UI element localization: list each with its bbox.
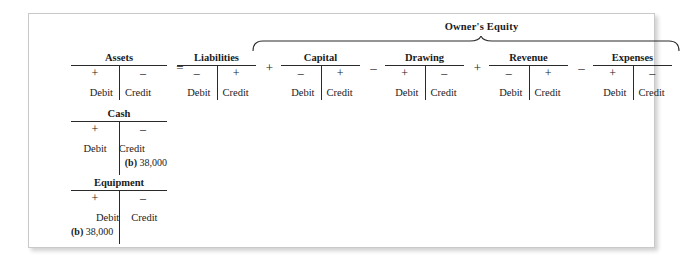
taccount-drawing: Drawing+–DebitCredit — [385, 51, 464, 100]
debit-entry: (b) 38,000 — [71, 225, 119, 238]
account-center-stem — [217, 66, 218, 100]
account-center-stem — [425, 66, 426, 100]
credit-label: Credit — [327, 86, 361, 100]
account-title: Assets — [71, 51, 167, 64]
debit-sign: + — [71, 191, 119, 206]
taccount-assets: Assets+–DebitCredit — [71, 51, 167, 100]
account-body: –+DebitCredit — [177, 66, 256, 100]
debit-label: Debit — [593, 86, 627, 100]
account-center-stem — [633, 66, 634, 100]
owners-equity-brace — [251, 36, 681, 52]
debit-sign: + — [593, 66, 633, 81]
account-center-stem — [321, 66, 322, 100]
credit-column: Credit — [125, 211, 167, 238]
account-body: –+DebitCredit — [489, 66, 568, 100]
account-title: Capital — [281, 51, 360, 64]
account-body: +–DebitCredit — [71, 66, 167, 100]
account-title: Drawing — [385, 51, 464, 64]
account-title: Revenue — [489, 51, 568, 64]
credit-label: Credit — [431, 86, 465, 100]
credit-label: Credit — [223, 86, 257, 100]
debit-sign: – — [489, 66, 529, 81]
credit-entry: (b) 38,000 — [119, 156, 167, 169]
credit-sign: – — [633, 66, 673, 81]
debit-label: Debit — [281, 86, 315, 100]
account-body: +–DebitCredit — [593, 66, 672, 100]
account-body: –+DebitCredit — [281, 66, 360, 100]
credit-label: Credit — [535, 86, 569, 100]
debit-column: Debit — [71, 86, 119, 100]
credit-sign: – — [119, 191, 167, 206]
account-title: Liabilities — [177, 51, 256, 64]
account-center-stem — [119, 191, 120, 244]
debit-label: Debit — [71, 86, 113, 100]
credit-column: Credit — [321, 86, 361, 100]
taccount-expenses: Expenses+–DebitCredit — [593, 51, 672, 100]
credit-sign: – — [119, 122, 167, 137]
debit-label: Debit — [385, 86, 419, 100]
debit-sign: – — [281, 66, 321, 81]
taccount-revenue: Revenue–+DebitCredit — [489, 51, 568, 100]
credit-sign: + — [529, 66, 569, 81]
account-body: +–DebitCredit(b) 38,000 — [71, 122, 167, 169]
debit-sign: + — [71, 122, 119, 137]
debit-sign: – — [177, 66, 217, 81]
debit-label: Debit — [71, 211, 119, 225]
account-center-stem — [119, 122, 120, 175]
credit-label: Credit — [131, 211, 167, 225]
taccount-capital: Capital–+DebitCredit — [281, 51, 360, 100]
credit-column: Credit — [217, 86, 257, 100]
operator-after-capital: – — [361, 61, 386, 74]
credit-column: Credit — [119, 86, 167, 100]
debit-column: Debit — [281, 86, 321, 100]
debit-label: Debit — [177, 86, 211, 100]
debit-sign: + — [71, 66, 119, 81]
debit-sign: + — [385, 66, 425, 81]
debit-column: Debit — [593, 86, 633, 100]
operator-after-revenue: – — [569, 61, 594, 74]
account-title: Expenses — [593, 51, 672, 64]
credit-sign: – — [425, 66, 465, 81]
account-body: +–Debit(b) 38,000Credit — [71, 191, 167, 238]
debit-label: Debit — [71, 142, 107, 156]
debit-column: Debit(b) 38,000 — [71, 211, 125, 238]
operator-after-drawing: + — [465, 61, 490, 74]
taccount-liabilities: Liabilities–+DebitCredit — [177, 51, 256, 100]
account-center-stem — [529, 66, 530, 100]
accounting-equation-figure: Owner's Equity Assets+–DebitCredit=Liabi… — [28, 13, 655, 248]
credit-sign: + — [321, 66, 361, 81]
account-title: Equipment — [71, 176, 167, 189]
debit-label: Debit — [489, 86, 523, 100]
taccount-equipment: Equipment+–Debit(b) 38,000Credit — [71, 176, 167, 238]
credit-sign: + — [217, 66, 257, 81]
credit-label: Credit — [639, 86, 673, 100]
debit-column: Debit — [385, 86, 425, 100]
credit-column: Credit — [529, 86, 569, 100]
debit-column: Debit — [489, 86, 529, 100]
account-center-stem — [119, 66, 120, 100]
credit-column: Credit — [633, 86, 673, 100]
account-body: +–DebitCredit — [385, 66, 464, 100]
debit-column: Debit — [71, 142, 113, 169]
taccount-cash: Cash+–DebitCredit(b) 38,000 — [71, 107, 167, 169]
credit-sign: – — [119, 66, 167, 81]
account-title: Cash — [71, 107, 167, 120]
credit-column: Credit(b) 38,000 — [113, 142, 167, 169]
operator-after-liabilities: + — [257, 61, 282, 74]
debit-column: Debit — [177, 86, 217, 100]
owners-equity-group-label: Owner's Equity — [429, 21, 534, 32]
credit-label: Credit — [125, 86, 167, 100]
credit-label: Credit — [119, 142, 167, 156]
credit-column: Credit — [425, 86, 465, 100]
